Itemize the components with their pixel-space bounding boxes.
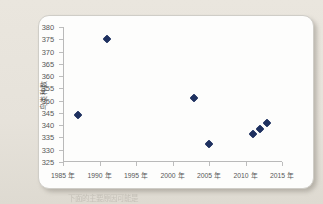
x-axis-tick: 2010 年 xyxy=(246,162,247,166)
y-axis-tick-label: 360 xyxy=(42,72,54,81)
y-axis-tick-label: 335 xyxy=(42,133,54,142)
y-axis-tick: 345 xyxy=(59,113,63,114)
x-axis-tick: 2005 年 xyxy=(209,162,210,166)
y-axis-tick-label: 345 xyxy=(42,108,54,117)
scatter-chart: 鸟类种数 38037537036536035535034534033533032… xyxy=(39,16,315,190)
data-point xyxy=(73,111,81,119)
screenshot-root: 鸟类种数 38037537036536035535034534033533032… xyxy=(0,0,323,204)
plot-area: 鸟类种数 38037537036536035535034534033533032… xyxy=(63,27,282,162)
x-axis-tick-label: 1985 年 xyxy=(51,170,75,180)
x-axis-tick-label: 2015 年 xyxy=(270,170,294,180)
y-axis-tick: 340 xyxy=(59,125,63,126)
y-axis-tick: 330 xyxy=(59,150,63,151)
y-axis-tick-label: 340 xyxy=(42,121,54,130)
clipped-footer-text: 下面的主要原因可能是 xyxy=(0,192,323,204)
x-axis-tick-label: 2005 年 xyxy=(197,170,221,180)
y-axis-tick-label: 325 xyxy=(42,158,54,167)
x-axis-tick-label: 1995 年 xyxy=(124,170,148,180)
x-axis-tick: 1985 年 xyxy=(63,162,64,166)
data-point xyxy=(103,35,111,43)
y-axis-tick: 360 xyxy=(59,76,63,77)
x-axis-tick-label: 1990 年 xyxy=(87,170,111,180)
x-axis-tick: 1990 年 xyxy=(100,162,101,166)
data-point xyxy=(205,139,213,147)
chart-card: 鸟类种数 38037537036536035535034534033533032… xyxy=(38,15,314,189)
y-axis-tick: 365 xyxy=(59,64,63,65)
y-axis-tick-label: 370 xyxy=(42,47,54,56)
x-axis-tick-label: 2000 年 xyxy=(160,170,184,180)
y-axis-tick: 375 xyxy=(59,39,63,40)
x-axis-tick-label: 2010 年 xyxy=(233,170,257,180)
data-point xyxy=(249,130,257,138)
y-axis-line xyxy=(63,27,64,162)
y-axis-tick-label: 380 xyxy=(42,23,54,32)
y-axis-tick-label: 365 xyxy=(42,59,54,68)
y-axis-tick: 355 xyxy=(59,88,63,89)
y-axis-tick: 370 xyxy=(59,52,63,53)
x-axis-tick: 2015 年 xyxy=(282,162,283,166)
clipped-footer-label: 下面的主要原因可能是 xyxy=(68,192,138,203)
data-point xyxy=(190,94,198,102)
x-axis-tick: 1995 年 xyxy=(136,162,137,166)
data-point xyxy=(263,118,271,126)
y-axis-tick: 380 xyxy=(59,27,63,28)
y-axis-tick-label: 355 xyxy=(42,84,54,93)
y-axis-tick-label: 330 xyxy=(42,145,54,154)
x-axis-tick: 2000 年 xyxy=(173,162,174,166)
y-axis-tick: 350 xyxy=(59,101,63,102)
y-axis-tick-label: 350 xyxy=(42,96,54,105)
data-point xyxy=(256,125,264,133)
y-axis-tick: 335 xyxy=(59,137,63,138)
y-axis-tick-label: 375 xyxy=(42,35,54,44)
